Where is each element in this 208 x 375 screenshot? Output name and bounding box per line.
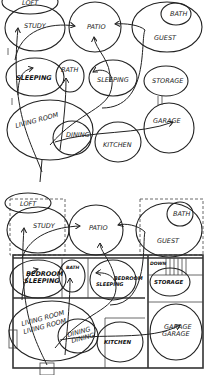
label-bath-guest-2: BATH [173,210,190,218]
label-bath-2: BATH [66,265,80,270]
label-kitchen: KITCHEN [103,141,132,149]
bubble-bath [56,60,84,92]
arrow-study-patio [15,25,75,60]
label-guest-2: GUEST [157,237,180,245]
label-patio-2: PATIO [89,224,108,232]
bubble-diagram-canvas: LOFT STUDY PATIO BATH GUEST SLEEPING BAT… [0,0,208,375]
label-study: STUDY [24,22,47,30]
stairs [166,258,186,275]
label-kitchen-2: KITCHEN [104,339,131,345]
label-storage-2: STORAGE [154,279,183,285]
label-storage: STORAGE [152,77,184,85]
label-down: DOWN [150,261,167,266]
label-study-2: STUDY [33,222,56,230]
label-sleeping-2: SLEEPING [97,76,129,84]
bubble-study-2 [7,207,69,253]
label-bath-guest: BATH [170,10,187,18]
label-patio: PATIO [87,23,106,31]
arrow2-study-patio [22,226,80,258]
label-guest: GUEST [154,34,177,42]
label-sleeping-1b: SLEEPING [24,277,60,285]
bottom-floor-plan: DOWN LOFT STUDY PATIO BATH GUEST BEDROOM… [5,193,203,375]
arrow-entry-study [16,28,42,172]
bubble-guest [132,2,202,52]
label-bath: BATH [61,66,78,74]
top-bubble-diagram: LOFT STUDY PATIO BATH GUEST SLEEPING BAT… [2,0,202,182]
guest-dashed-zone [140,199,203,255]
label-garage-2b: GARAGE [162,330,190,338]
label-sleeping-2b: SLEEPING [96,281,123,287]
